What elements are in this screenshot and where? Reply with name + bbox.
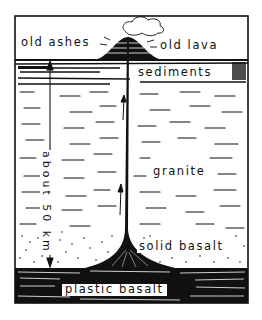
label-solid-basalt: solid basalt [137,241,226,253]
granite-layer [20,92,244,228]
label-old-ashes: old ashes [19,37,92,49]
ash-cloud [123,17,164,36]
label-granite: granite [151,166,207,178]
label-plastic-basalt: plastic basalt [62,284,167,296]
label-sediments: sediments [136,67,214,79]
magma-flow-arrow [118,184,123,215]
label-depth: about 50 km [40,150,53,255]
magma-flow-arrow [121,95,126,120]
label-old-lava: old lava [158,40,220,52]
